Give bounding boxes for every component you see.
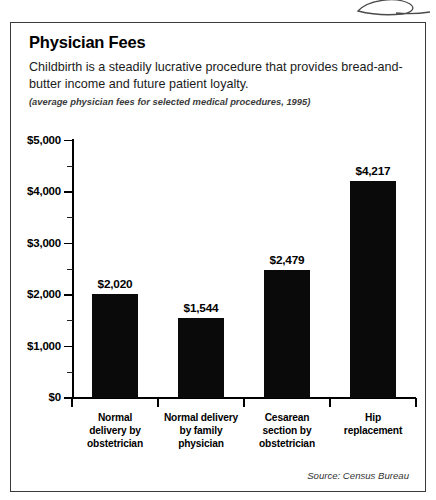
x-axis-category-line: physician [158,437,244,450]
y-axis-tick [64,294,73,295]
x-axis-category-line: Normal [72,411,158,424]
x-axis-category-line: obstetrician [72,437,158,450]
x-axis-category-line: Cesarean [244,411,330,424]
x-axis-separator [329,398,330,407]
x-axis-separator [243,398,244,407]
y-axis-label: $2,000 [1,288,61,300]
bar[interactable] [264,270,310,398]
y-axis-tick [64,191,73,192]
y-axis-label: $1,000 [1,340,61,352]
bar[interactable] [178,318,224,398]
x-axis-category-line: obstetrician [244,437,330,450]
source-note: Source: Census Bureau [307,470,409,481]
bar-value-label: $1,544 [156,301,246,315]
bar-value-label: $2,479 [242,253,332,267]
x-axis-category-label: Normaldelivery byobstetrician [72,411,158,451]
bar-chart: $0$1,000$2,000$3,000$4,000$5,000$2,020No… [11,23,427,493]
x-axis-separator [415,398,416,407]
y-axis-tick [64,140,73,141]
y-axis-minor-tick [67,320,73,321]
y-axis-label: $4,000 [1,185,61,197]
y-axis-label: $3,000 [1,237,61,249]
y-axis-label: $0 [1,391,61,403]
x-axis-category-label: Hipreplacement [330,411,416,437]
x-axis-category-line: delivery by [72,424,158,437]
chart-panel: Physician Fees Childbirth is a steadily … [10,22,426,492]
x-axis-category-line: Hip [330,411,416,424]
bar-value-label: $2,020 [70,277,160,291]
swoosh-icon [352,0,432,22]
y-axis-minor-tick [67,166,73,167]
x-axis-category-line: section by [244,424,330,437]
y-axis-tick [64,243,73,244]
y-axis-minor-tick [67,372,73,373]
y-axis-minor-tick [67,217,73,218]
bar[interactable] [92,294,138,398]
x-axis-separator [71,398,72,407]
y-axis-tick [64,346,73,347]
x-axis-category-line: by family [158,424,244,437]
x-axis-category-label: Normal deliveryby familyphysician [158,411,244,451]
bar[interactable] [350,181,396,398]
bar-value-label: $4,217 [328,164,418,178]
x-axis-separator [157,398,158,407]
x-axis-category-line: replacement [330,424,416,437]
x-axis-category-line: Normal delivery [158,411,244,424]
y-axis-minor-tick [67,269,73,270]
y-axis-label: $5,000 [1,134,61,146]
x-axis-category-label: Cesareansection byobstetrician [244,411,330,451]
